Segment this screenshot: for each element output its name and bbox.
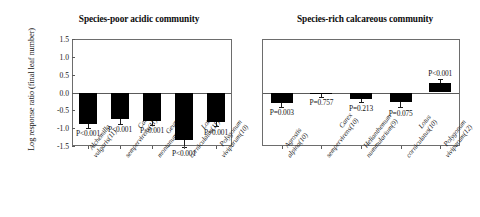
panel-species-rich-calcareous: Species-rich calcareous community P=0.00… [254,0,476,217]
p-value-annotation: P<0.001 [108,125,132,134]
y-tick-mark [72,93,75,94]
p-value-annotation: P=0.075 [389,109,413,118]
y-tick-mark [72,75,75,76]
y-tick-label: 1.0 [43,52,69,61]
panel-species-poor-acidic: Species-poor acidic community 1.51.00.50… [46,0,232,217]
y-tick-label: -1.5 [43,142,69,151]
y-tick-label: -0.5 [43,106,69,115]
y-tick-mark [72,110,75,111]
y-tick-mark [72,128,75,129]
panel-title-right: Species-rich calcareous community [254,14,476,24]
bar [143,93,161,122]
p-value-annotation: P=0.003 [270,108,294,117]
bar [111,93,129,120]
bar [429,83,451,93]
bar [175,93,193,141]
y-tick-mark [72,146,75,147]
figure-canvas: Log response ratio (final leaf number) S… [0,0,480,217]
bar [390,93,412,103]
bar [79,93,97,124]
y-tick-label: 0.5 [43,70,69,79]
bar [207,93,225,123]
panel-title-left: Species-poor acidic community [46,14,232,24]
y-tick-mark [72,57,75,58]
y-tick-label: 1.5 [43,35,69,44]
p-value-annotation: P<0.001 [140,126,164,135]
error-bar-cap [438,79,443,80]
y-tick-label: -1.0 [43,124,69,133]
p-value-annotation: P=0.757 [309,98,333,107]
y-axis-label: Log response ratio (final leaf number) [27,10,36,170]
p-value-annotation: P=0.213 [349,104,373,113]
y-tick-label: 0.0 [43,88,69,97]
p-value-annotation: P<0.001 [428,69,452,78]
bar [271,93,293,104]
y-tick-mark [72,39,75,40]
